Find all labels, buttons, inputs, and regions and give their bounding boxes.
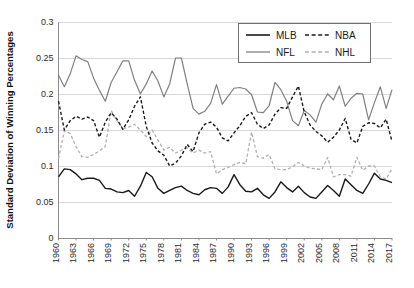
x-tick-1963: 1963	[68, 243, 78, 263]
y-tick-0.2: 0.2	[41, 89, 54, 99]
y-tick-0.1: 0.1	[41, 161, 54, 171]
x-tick-1984: 1984	[191, 243, 201, 263]
x-tick-2017: 2017	[384, 243, 394, 263]
x-tick-1975: 1975	[138, 243, 148, 263]
legend-label-nhl: NHL	[335, 47, 355, 58]
y-tick-0.3: 0.3	[41, 17, 54, 27]
x-tick-1990: 1990	[226, 243, 236, 263]
x-tick-2002: 2002	[296, 243, 306, 263]
x-tick-1996: 1996	[261, 243, 271, 263]
chart-container: 00.050.10.150.20.250.3 19601963196619691…	[0, 0, 414, 288]
y-tick-0: 0	[48, 233, 53, 243]
legend-label-mlb: MLB	[276, 30, 297, 41]
y-tick-0.25: 0.25	[36, 53, 54, 63]
y-axis-title: Standard Deviation of Winning Percentage…	[4, 31, 15, 228]
x-tick-2011: 2011	[349, 243, 359, 262]
chart-legend[interactable]: MLB NBA NFL NHL	[239, 24, 371, 63]
x-tick-2014: 2014	[366, 243, 376, 263]
y-tick-0.15: 0.15	[36, 125, 54, 135]
x-tick-2008: 2008	[331, 243, 341, 263]
x-tick-1969: 1969	[103, 243, 113, 263]
x-tick-1972: 1972	[121, 243, 131, 263]
legend-label-nba: NBA	[335, 30, 356, 41]
x-tick-1981: 1981	[173, 243, 183, 263]
y-tick-0.05: 0.05	[36, 197, 54, 207]
x-tick-1987: 1987	[208, 243, 218, 263]
legend-label-nfl: NFL	[276, 47, 295, 58]
x-tick-1999: 1999	[279, 243, 289, 263]
winning-percentage-line-chart: 00.050.10.150.20.250.3 19601963196619691…	[0, 0, 414, 288]
x-tick-1966: 1966	[86, 243, 96, 263]
x-tick-2005: 2005	[314, 243, 324, 263]
x-tick-1993: 1993	[244, 243, 254, 263]
x-tick-1960: 1960	[51, 243, 61, 263]
x-tick-1978: 1978	[156, 243, 166, 263]
